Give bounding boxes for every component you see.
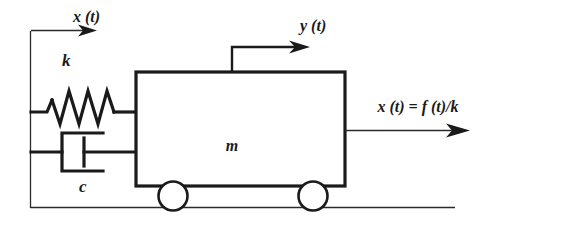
spring-element <box>31 91 136 124</box>
label-force-expression: x (t) = f (t)/k <box>376 98 458 116</box>
label-displacement-y: y (t) <box>298 17 326 35</box>
mass-block <box>136 72 345 186</box>
displacement-arrow-x <box>31 25 97 37</box>
label-displacement-x: x (t) <box>72 8 100 26</box>
displacement-arrow-y <box>232 41 310 73</box>
displacement-arrow-y-shaft <box>232 47 295 72</box>
spring-left-lead <box>31 100 52 112</box>
wheel-left <box>159 182 188 211</box>
label-spring-constant: k <box>62 51 71 70</box>
damper-element <box>31 133 136 171</box>
spring-coils <box>52 91 114 124</box>
mechanical-system-diagram: x (t) k c m <box>0 0 568 243</box>
diagram-canvas: x (t) k c m <box>0 0 568 243</box>
force-arrow <box>345 124 470 138</box>
wheel-right <box>299 182 328 211</box>
label-damping-constant: c <box>79 177 87 196</box>
label-mass: m <box>226 137 238 154</box>
